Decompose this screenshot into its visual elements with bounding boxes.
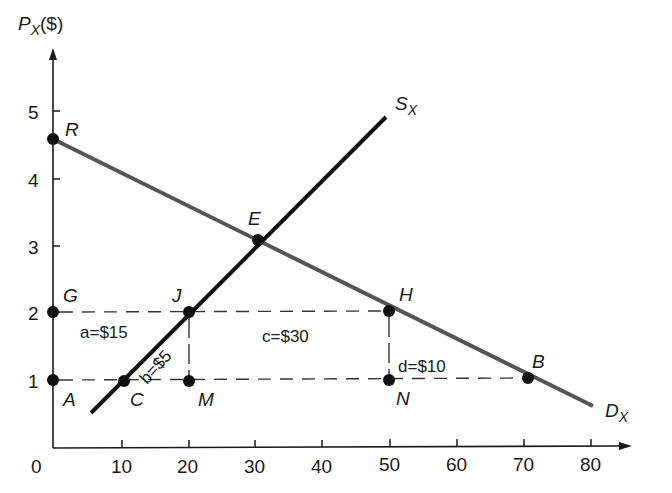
y-tick-3: 3 [28, 237, 39, 258]
supply-label: SX [395, 93, 418, 118]
x-tick-40: 40 [311, 456, 332, 477]
supply-demand-chart: 1 2 3 4 5 0 10 20 30 40 50 60 70 80 PX($… [0, 0, 672, 493]
area-c-label: c=$30 [262, 327, 309, 346]
area-b-label: b=$5 [136, 347, 176, 388]
dashed-line-price-2 [60, 311, 389, 312]
x-tick-20: 20 [177, 456, 198, 477]
supply-curve [91, 117, 386, 413]
label-N: N [396, 388, 410, 409]
label-G: G [63, 285, 78, 306]
point-E [252, 234, 264, 246]
point-B [522, 372, 534, 384]
x-tick-60: 60 [446, 454, 467, 475]
x-tick-70: 70 [513, 454, 534, 475]
label-C: C [130, 389, 144, 410]
dashed-line-price-1 [60, 378, 528, 380]
y-tick-5: 5 [28, 102, 39, 123]
y-axis-arrow-icon [49, 48, 57, 60]
label-E: E [248, 208, 261, 229]
y-tick-1: 1 [28, 371, 39, 392]
x-tick-10: 10 [111, 456, 132, 477]
label-M: M [198, 389, 214, 410]
label-J: J [171, 285, 182, 306]
y-tick-4: 4 [28, 170, 39, 191]
x-tick-80: 80 [580, 454, 601, 475]
point-N [383, 374, 395, 386]
x-tick-50: 50 [379, 454, 400, 475]
point-C [118, 375, 130, 387]
area-a-label: a=$15 [80, 323, 128, 342]
y-tick-2: 2 [28, 303, 39, 324]
point-G [47, 306, 59, 318]
x-tick-30: 30 [244, 456, 265, 477]
y-axis-title: PX($) [18, 13, 63, 38]
point-M [183, 375, 195, 387]
point-H [383, 305, 395, 317]
label-R: R [65, 119, 79, 140]
point-A [47, 374, 59, 386]
x-axis [53, 446, 622, 448]
point-J [183, 306, 195, 318]
label-B: B [532, 351, 545, 372]
y-ticks [53, 111, 60, 380]
demand-label: DX [605, 400, 629, 425]
label-A: A [62, 389, 76, 410]
label-H: H [399, 284, 413, 305]
area-d-label: d=$10 [398, 357, 446, 376]
x-tick-0: 0 [31, 456, 42, 477]
x-axis-arrow-icon [619, 442, 632, 450]
point-R [47, 133, 59, 145]
